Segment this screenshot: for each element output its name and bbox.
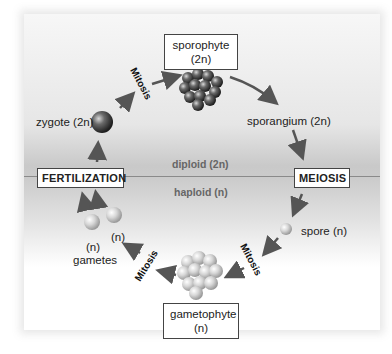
sporophyte-box: sporophyte (2n) (164, 34, 238, 70)
arrow-sporophyte-to-sporangium (230, 77, 275, 102)
meiosis-box: MEIOSIS (294, 168, 350, 188)
arrow-gamete2-to-fertilization (96, 194, 98, 206)
fertilization-box: FERTILIZATION (37, 168, 124, 188)
sporophyte-label: sporophyte (171, 38, 231, 52)
gametophyte-ploidy: (n) (170, 321, 232, 335)
gamete-right-ploidy: (n) (111, 230, 125, 244)
gamete-left-ploidy: (n) (86, 240, 100, 254)
gametophyte-box: gametophyte (n) (163, 303, 239, 339)
arrow-meiosis-to-spore (294, 194, 302, 213)
arrow-mitosis-to-gametophyte (228, 268, 244, 276)
arrow-gamete1-to-fertilization (83, 196, 86, 208)
sporophyte-ploidy: (2n) (171, 52, 231, 66)
gametophyte-label: gametophyte (170, 307, 232, 321)
arrow-mitosis-to-sporophyte (152, 76, 178, 84)
haploid-region-label: haploid (n) (174, 186, 228, 198)
spore-cell-icon (280, 223, 292, 235)
arrow-sporangium-to-meiosis (293, 130, 302, 156)
sporophyte-cluster-icon (179, 68, 223, 111)
arrow-fertilization-to-zygote (97, 145, 98, 162)
gametes-label: gametes (73, 253, 117, 267)
zygote-cell-icon (91, 111, 113, 133)
diploid-region-label: diploid (2n) (172, 158, 229, 170)
gamete-left-icon (84, 214, 100, 230)
sporangium-label: sporangium (2n) (247, 114, 331, 128)
spore-label: spore (n) (301, 224, 347, 238)
zygote-label: zygote (2n) (36, 115, 94, 129)
arrow-spore-to-mitosis (265, 238, 278, 253)
gametophyte-cluster-icon (177, 251, 223, 300)
arrow-mitosis-to-gametes (126, 245, 140, 253)
arrow-gametophyte-to-mitosis (160, 271, 176, 275)
arrow-zygote-to-mitosis (120, 95, 132, 108)
gamete-right-icon (106, 207, 122, 223)
